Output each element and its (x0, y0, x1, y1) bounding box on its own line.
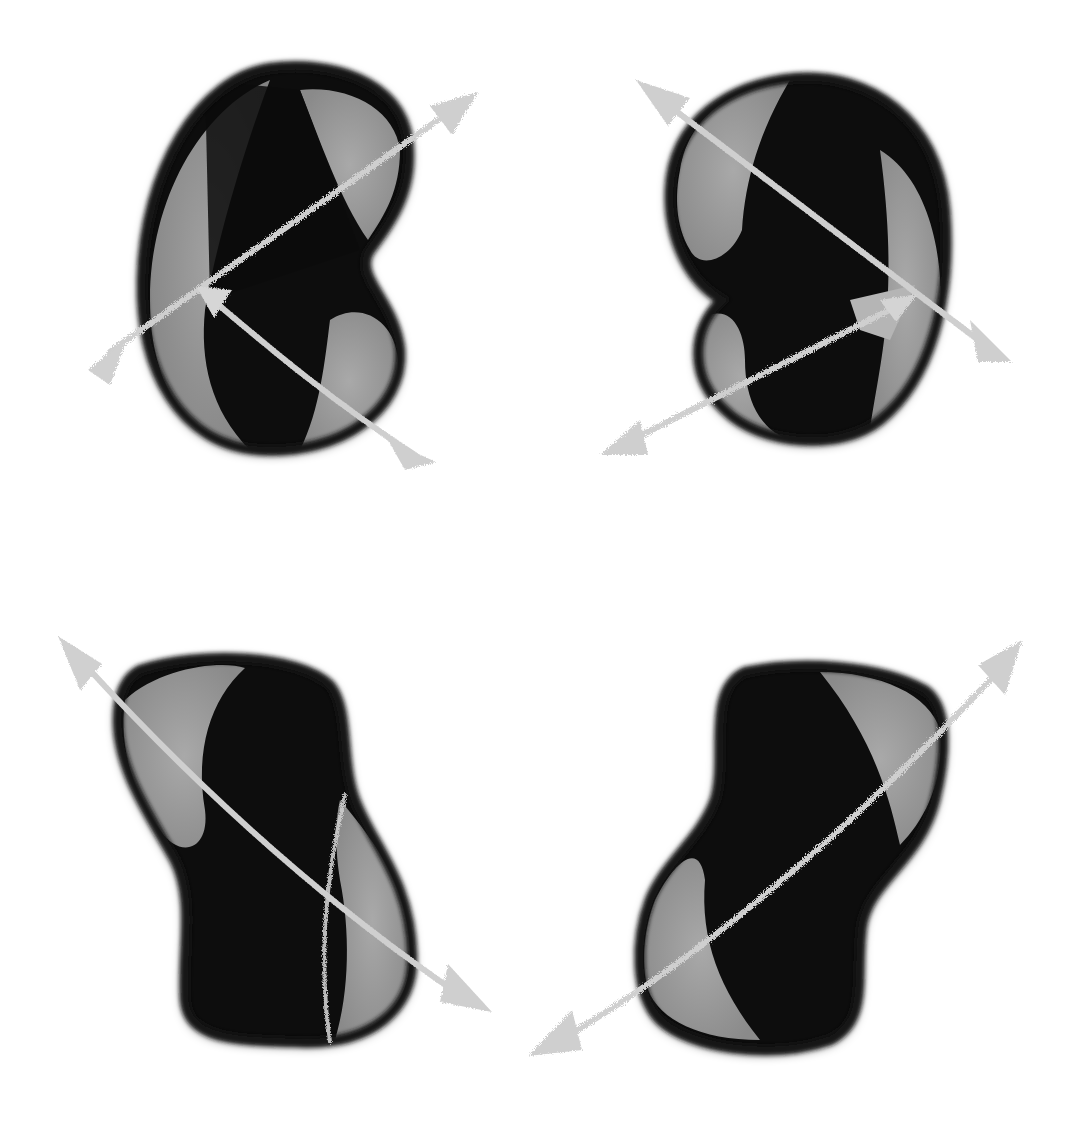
figure-top-left (88, 66, 478, 470)
figure-top-right (600, 77, 1012, 455)
figure-bottom-right (528, 640, 1022, 1056)
illustration-canvas (0, 0, 1080, 1126)
figure-bottom-left (58, 636, 492, 1044)
